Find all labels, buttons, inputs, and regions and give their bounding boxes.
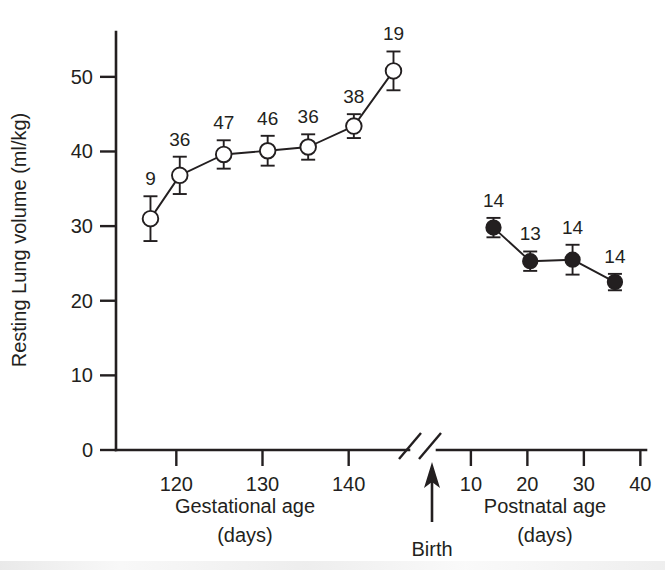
data-point: 14 xyxy=(562,217,584,275)
data-point: 14 xyxy=(483,190,505,237)
y-tick-label: 0 xyxy=(82,439,93,461)
sample-size-label: 36 xyxy=(169,129,190,150)
data-series-layer: 936474636381914131414 xyxy=(143,23,626,290)
sample-size-label: 47 xyxy=(213,112,234,133)
sample-size-label: 13 xyxy=(520,223,541,244)
marker-open-circle xyxy=(172,168,188,184)
marker-open-circle xyxy=(386,63,402,79)
chart-canvas: 01020304050 Resting Lung volume (ml/kg) … xyxy=(0,0,665,570)
data-point: 36 xyxy=(298,106,319,159)
marker-filled-circle xyxy=(565,252,579,266)
y-tick-label: 20 xyxy=(71,290,93,312)
x-axis-right-tick-labels: 10203040 xyxy=(460,473,652,495)
x-tick-label-right: 40 xyxy=(629,473,651,495)
y-axis-title: Resting Lung volume (ml/kg) xyxy=(8,113,30,368)
sample-size-label: 46 xyxy=(257,108,278,129)
x-tick-label-right: 10 xyxy=(460,473,482,495)
marker-open-circle xyxy=(143,211,159,227)
y-axis-group: 01020304050 Resting Lung volume (ml/kg) xyxy=(8,32,116,461)
y-tick-label: 10 xyxy=(71,364,93,386)
birth-annotation-group: Birth xyxy=(411,462,452,560)
x-axis-left-title: Gestational age xyxy=(175,495,315,517)
x-axis-right-group: 10203040 Postnatal age (days) xyxy=(437,450,651,546)
y-tick-label: 40 xyxy=(71,140,93,162)
x-tick-label-left: 130 xyxy=(246,473,279,495)
data-point: 46 xyxy=(257,108,278,166)
sample-size-label: 14 xyxy=(604,246,626,267)
marker-open-circle xyxy=(300,139,316,155)
x-axis-left-tick-labels: 120130140 xyxy=(160,473,366,495)
x-tick-label-left: 140 xyxy=(332,473,365,495)
x-axis-left-group: 120130140 Gestational age (days) xyxy=(116,450,409,546)
x-axis-left-ticks xyxy=(176,450,348,466)
y-axis-tick-labels: 01020304050 xyxy=(71,66,93,461)
x-axis-right-ticks xyxy=(471,450,640,466)
x-axis-left-units: (days) xyxy=(217,524,273,546)
data-point: 13 xyxy=(520,223,541,270)
x-tick-label-right: 30 xyxy=(573,473,595,495)
marker-filled-circle xyxy=(523,254,537,268)
marker-filled-circle xyxy=(608,275,622,289)
x-axis-right-title: Postnatal age xyxy=(484,495,606,517)
marker-open-circle xyxy=(260,143,276,159)
data-point: 47 xyxy=(213,112,234,168)
x-tick-label-left: 120 xyxy=(160,473,193,495)
sample-size-label: 19 xyxy=(383,23,404,44)
axis-break-icon xyxy=(399,433,441,459)
marker-open-circle xyxy=(216,147,232,163)
marker-filled-circle xyxy=(486,220,500,234)
sample-size-label: 14 xyxy=(483,190,505,211)
sample-size-label: 9 xyxy=(145,168,156,189)
data-point: 36 xyxy=(169,129,190,194)
birth-label: Birth xyxy=(411,538,452,560)
series-connector xyxy=(494,228,615,283)
series-postnatal: 14131414 xyxy=(483,190,626,290)
sample-size-label: 14 xyxy=(562,217,584,238)
x-tick-label-right: 20 xyxy=(516,473,538,495)
sample-size-label: 38 xyxy=(343,86,364,107)
data-point: 38 xyxy=(343,86,364,138)
y-axis-ticks xyxy=(100,77,116,450)
y-tick-label: 30 xyxy=(71,215,93,237)
marker-open-circle xyxy=(346,118,362,134)
series-gestational: 9364746363819 xyxy=(143,23,404,241)
data-point: 9 xyxy=(143,168,159,241)
data-point: 14 xyxy=(604,246,626,290)
x-axis-right-units: (days) xyxy=(517,524,573,546)
sample-size-label: 36 xyxy=(298,106,319,127)
figure-container: 01020304050 Resting Lung volume (ml/kg) … xyxy=(0,0,665,570)
y-tick-label: 50 xyxy=(71,66,93,88)
